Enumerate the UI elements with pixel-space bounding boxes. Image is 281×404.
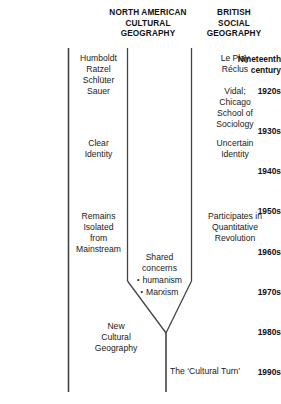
entry-north-american-nineteenth-century: HumboldtRatzelSchlüter: [70, 53, 127, 86]
period-label-1960s: 1960s: [219, 247, 281, 258]
entry-british-nineteenth-century: Le PlayRéclus: [192, 53, 278, 75]
period-label-1980s: 1980s: [219, 327, 281, 338]
entry-north-american-1930s-clear-identity: ClearIdentity: [70, 138, 127, 160]
entry-british-1950s-quantitative-revolution: Participates inQuantitativeRevolution: [190, 211, 280, 244]
shared-concern-item: Marxism: [129, 286, 190, 298]
entry-british-1920s: Vidal;ChicagoSchool ofSociology: [192, 86, 278, 130]
entry-north-american-1950s-1960s-remains-isolated: RemainsIsolatedfromMainstream: [68, 211, 129, 255]
period-label-1970s: 1970s: [219, 287, 281, 298]
entry-the-cultural-turn: The ‘Cultural Turn’: [170, 366, 280, 377]
period-label-1940s: 1940s: [219, 166, 281, 177]
diagram-canvas: NORTH AMERICANCULTURALGEOGRAPHY BRITISHS…: [0, 0, 281, 404]
column-heading-british-social-geography: BRITISHSOCIALGEOGRAPHY: [188, 8, 280, 40]
entry-north-american-1920s: Sauer: [70, 86, 127, 97]
entry-british-1930s-uncertain-identity: UncertainIdentity: [192, 138, 278, 160]
shared-concern-item: humanism: [129, 274, 190, 286]
shared-concerns-list: humanism Marxism: [129, 274, 190, 298]
entry-new-cultural-geography: NewCulturalGeography: [79, 321, 153, 354]
entry-shared-concerns-title: Sharedconcerns: [129, 252, 190, 274]
